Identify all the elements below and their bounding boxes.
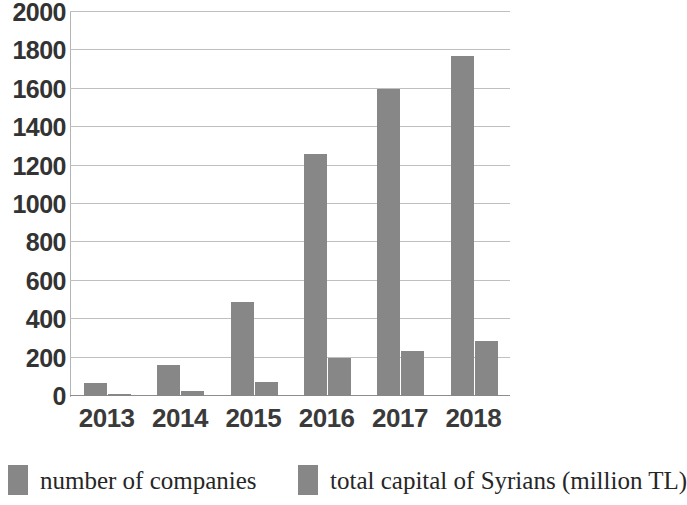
y-tick-label-1400: 1400: [4, 115, 66, 140]
y-tick-label-1200: 1200: [4, 153, 66, 178]
legend-label: total capital of Syrians (million TL): [330, 468, 687, 493]
legend-label: number of companies: [40, 468, 257, 493]
y-tick-label-2000: 2000: [4, 0, 66, 25]
bar-2018-series-1: [475, 341, 498, 396]
bar-group-2018: [437, 12, 510, 396]
bar-group-2014: [143, 12, 216, 396]
x-tick-label-2018: 2018: [437, 404, 510, 433]
chart-legend: number of companies total capital of Syr…: [0, 458, 657, 505]
x-tick-label-2016: 2016: [290, 404, 363, 433]
legend-swatch-icon: [8, 465, 28, 495]
y-tick-label-1000: 1000: [4, 192, 66, 217]
bar-2016-series-1: [328, 358, 351, 396]
bar-group-2015: [217, 12, 290, 396]
bar-2017-series-0: [377, 89, 400, 396]
y-tick-label-0: 0: [4, 384, 66, 409]
y-tick-label-400: 400: [4, 307, 66, 332]
y-axis-tick-labels: 0200400600800100012001400160018002000: [0, 12, 66, 396]
x-axis-tick-labels: 201320142015201620172018: [70, 404, 510, 444]
x-tick-label-2014: 2014: [143, 404, 216, 433]
bar-2015-series-1: [255, 382, 278, 396]
legend-swatch-icon: [298, 465, 318, 495]
plot-area: [70, 12, 510, 396]
x-tick-label-2015: 2015: [217, 404, 290, 433]
bar-2014-series-1: [181, 391, 204, 396]
bar-group-2016: [290, 12, 363, 396]
y-tick-label-200: 200: [4, 345, 66, 370]
y-tick-label-1800: 1800: [4, 38, 66, 63]
y-tick-label-1600: 1600: [4, 76, 66, 101]
bar-2016-series-0: [304, 154, 327, 396]
y-tick-label-600: 600: [4, 268, 66, 293]
legend-entry-total-capital-of-syrians: total capital of Syrians (million TL): [298, 458, 687, 502]
x-tick-label-2017: 2017: [363, 404, 436, 433]
y-tick-label-800: 800: [4, 230, 66, 255]
bar-2013-series-1: [108, 394, 131, 396]
legend-entry-number-of-companies: number of companies: [8, 458, 257, 502]
bar-group-2013: [70, 12, 143, 396]
bar-group-2017: [363, 12, 436, 396]
bar-2015-series-0: [231, 302, 254, 396]
x-tick-label-2013: 2013: [70, 404, 143, 433]
bar-2017-series-1: [401, 351, 424, 396]
bar-2014-series-0: [157, 365, 180, 396]
bar-2013-series-0: [84, 383, 107, 396]
bar-2018-series-0: [451, 56, 474, 396]
